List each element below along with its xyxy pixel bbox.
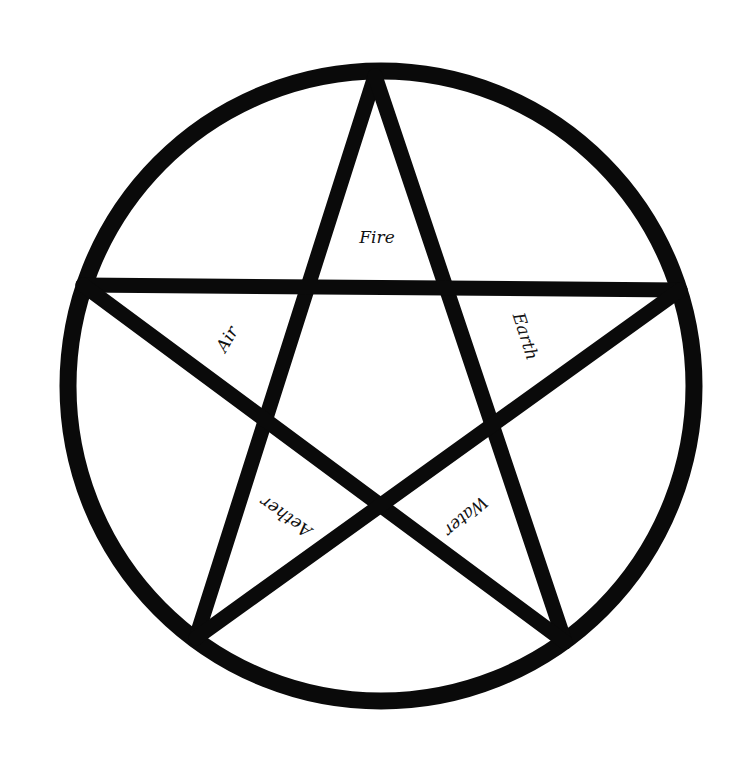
label-fire: Fire xyxy=(358,227,394,247)
star-line-left-to-right xyxy=(83,285,680,290)
background xyxy=(0,0,751,770)
pentagram-figure: Fire Air Earth Aether Water xyxy=(0,0,751,770)
